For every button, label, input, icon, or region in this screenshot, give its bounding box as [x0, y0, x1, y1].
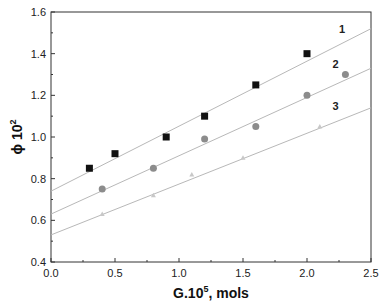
y-tick-label: 0.8 — [31, 173, 46, 185]
x-tick-label: 2.5 — [363, 267, 378, 279]
data-point-square — [304, 50, 311, 57]
series-labels: 123 — [333, 23, 346, 112]
x-axis-title: G.105, mols — [173, 284, 249, 301]
y-tick-label: 1.4 — [31, 48, 46, 60]
data-point-square — [86, 165, 93, 172]
x-tick-label: 0.0 — [43, 267, 58, 279]
plot-frame — [51, 12, 371, 262]
fit-line-2 — [51, 68, 371, 214]
data-point-circle — [201, 136, 208, 143]
x-tick-label: 0.5 — [107, 267, 122, 279]
series-label-2: 2 — [333, 58, 339, 70]
series-label-1: 1 — [339, 23, 345, 35]
data-markers — [86, 50, 349, 216]
data-point-triangle — [189, 172, 194, 177]
fit-lines — [51, 29, 371, 235]
data-point-circle — [304, 92, 311, 99]
y-axis-title: ϕ 102 — [8, 120, 25, 155]
data-point-square — [201, 113, 208, 120]
fit-line-3 — [51, 108, 371, 235]
x-tick-label: 1.5 — [235, 267, 250, 279]
data-point-circle — [150, 165, 157, 172]
chart: 0.40.60.81.01.21.41.6 0.00.51.01.52.02.5… — [0, 0, 383, 307]
data-point-circle — [99, 186, 106, 193]
y-tick-label: 0.6 — [31, 214, 46, 226]
y-tick-label: 1.0 — [31, 131, 46, 143]
data-point-triangle — [317, 124, 322, 128]
x-tick-label: 1.0 — [171, 267, 186, 279]
data-point-circle — [342, 71, 349, 78]
x-axis-ticks: 0.00.51.01.52.02.5 — [43, 258, 378, 279]
data-point-square — [112, 150, 119, 157]
y-tick-label: 1.2 — [31, 89, 46, 101]
data-point-square — [252, 81, 259, 88]
fit-line-1 — [51, 29, 371, 192]
data-point-square — [163, 134, 170, 141]
y-tick-label: 1.6 — [31, 6, 46, 18]
x-tick-label: 2.0 — [299, 267, 314, 279]
series-label-3: 3 — [333, 100, 339, 112]
data-point-circle — [252, 123, 259, 130]
